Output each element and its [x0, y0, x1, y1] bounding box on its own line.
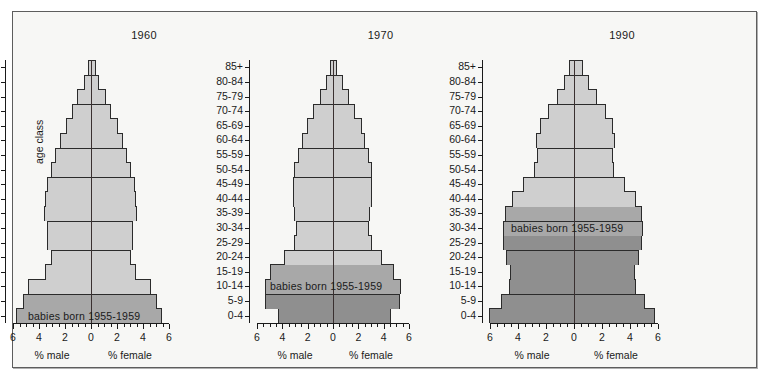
y-tick-70-74 [1, 111, 5, 112]
x-tick-minor [46, 324, 47, 327]
bar-male-10-14 [509, 279, 574, 294]
panel-title-1960: 1960 [19, 29, 269, 41]
x-tick-minor [130, 324, 131, 327]
bar-female-25-29 [91, 235, 133, 250]
x-tick-major [308, 324, 309, 329]
y-label-30-34: 30-34 [418, 222, 476, 233]
x-label-2: 2 [534, 331, 558, 343]
x-axis-caption-female: % female [92, 349, 168, 361]
bar-male-65-69 [540, 118, 574, 133]
bar-female-50-54 [91, 162, 131, 177]
x-tick-major [574, 324, 575, 329]
x-label-1: 4 [506, 331, 530, 343]
bar-female-55-59 [91, 148, 127, 163]
y-label-20-24: 20-24 [185, 251, 243, 262]
bar-female-0-4 [333, 308, 391, 323]
bar-male-60-64 [60, 133, 91, 148]
y-tick-10-14 [1, 286, 5, 287]
bar-female-15-19 [574, 264, 635, 279]
x-tick-minor [59, 324, 60, 327]
y-label-70-74: 70-74 [185, 105, 243, 116]
x-tick-major [143, 324, 144, 329]
y-tick-60-64 [1, 140, 5, 141]
center-axis-line [91, 60, 92, 323]
bar-male-35-39 [44, 206, 91, 221]
x-label-6: 6 [646, 331, 670, 343]
bar-female-10-14 [91, 279, 151, 294]
bar-female-40-44 [333, 191, 372, 206]
bar-female-80-84 [333, 75, 343, 90]
y-label-75-79: 75-79 [418, 91, 476, 102]
bar-male-70-74 [548, 104, 574, 119]
x-tick-minor [156, 324, 157, 327]
y-tick-50-54 [245, 170, 249, 171]
y-label-25-29: 25-29 [185, 237, 243, 248]
x-tick-minor [623, 324, 624, 327]
bar-male-30-34 [47, 221, 91, 236]
bar-male-15-19 [270, 264, 333, 279]
x-tick-minor [289, 324, 290, 327]
y-label-40-44: 40-44 [185, 193, 243, 204]
x-tick-minor [609, 324, 610, 327]
bar-female-5-9 [333, 294, 400, 309]
bar-female-5-9 [574, 294, 645, 309]
bar-male-30-34 [296, 221, 333, 236]
bar-female-10-14 [574, 279, 636, 294]
y-axis-line [482, 60, 483, 323]
x-label-3: 0 [321, 331, 345, 343]
x-tick-minor [314, 324, 315, 327]
bar-female-75-79 [333, 89, 349, 104]
y-tick-20-24 [478, 257, 482, 258]
y-label-70-74: 70-74 [418, 105, 476, 116]
x-label-3: 0 [562, 331, 586, 343]
bar-male-5-9 [265, 294, 333, 309]
y-tick-30-34 [245, 228, 249, 229]
x-label-4: 2 [590, 331, 614, 343]
x-tick-minor [295, 324, 296, 327]
y-label-40-44: 40-44 [418, 193, 476, 204]
bar-female-15-19 [91, 264, 136, 279]
y-tick-45-49 [1, 184, 5, 185]
bar-male-50-54 [51, 162, 91, 177]
y-tick-70-74 [245, 111, 249, 112]
y-label-5-9: 5-9 [185, 295, 243, 306]
x-tick-minor [346, 324, 347, 327]
y-axis-line [249, 60, 250, 323]
bar-male-10-14 [28, 279, 91, 294]
panel-title-1990: 1990 [491, 29, 753, 41]
y-label-65-69: 65-69 [185, 120, 243, 131]
bar-male-60-64 [536, 133, 575, 148]
bar-female-20-24 [91, 250, 131, 265]
bar-female-50-54 [333, 162, 372, 177]
x-tick-minor [390, 324, 391, 327]
y-tick-55-59 [245, 155, 249, 156]
x-tick-major [409, 324, 410, 329]
x-tick-major [658, 324, 659, 329]
x-label-3: 0 [79, 331, 103, 343]
bar-male-70-74 [72, 104, 91, 119]
x-tick-minor [72, 324, 73, 327]
x-tick-minor [85, 324, 86, 327]
bar-female-55-59 [574, 148, 613, 163]
bar-male-45-49 [47, 177, 91, 192]
y-label-60-64: 60-64 [185, 134, 243, 145]
y-label-15-19: 15-19 [185, 266, 243, 277]
x-tick-major [602, 324, 603, 329]
y-tick-85+ [245, 67, 249, 68]
x-tick-minor [339, 324, 340, 327]
y-tick-0-4 [245, 316, 249, 317]
x-tick-minor [352, 324, 353, 327]
y-tick-20-24 [1, 257, 5, 258]
x-tick-minor [365, 324, 366, 327]
bar-female-60-64 [91, 133, 123, 148]
x-label-0: 6 [245, 331, 269, 343]
y-label-25-29: 25-29 [418, 237, 476, 248]
x-label-2: 2 [296, 331, 320, 343]
y-label-20-24: 20-24 [418, 251, 476, 262]
bar-female-45-49 [333, 177, 372, 192]
x-tick-minor [78, 324, 79, 327]
y-tick-15-19 [245, 272, 249, 273]
x-axis-caption-male: % male [497, 349, 567, 361]
x-tick-minor [320, 324, 321, 327]
x-axis-caption-male: % male [260, 349, 330, 361]
